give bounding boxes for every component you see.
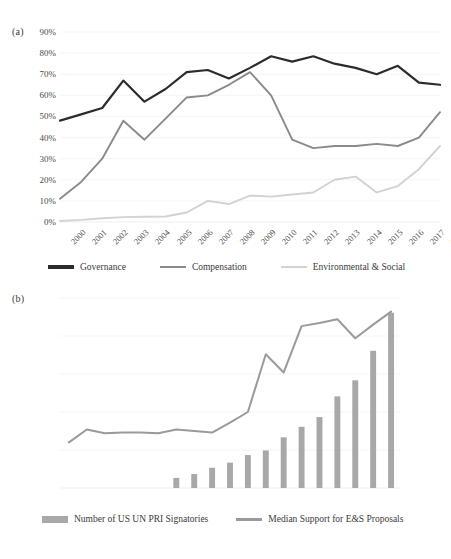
panel-a-label: (a) — [12, 26, 24, 37]
y-tick-label: 80% — [40, 48, 57, 58]
series-line-0 — [60, 56, 440, 120]
median-support-line — [69, 312, 391, 443]
figure-container: (a) 0%10%20%30%40%50%60%70%80%90% 200020… — [0, 0, 451, 559]
x-tick-label: 2012 — [322, 227, 341, 246]
x-tick-label: 2010 — [280, 227, 299, 246]
x-tick-label: 2002 — [111, 227, 130, 246]
panel-b-svg — [60, 298, 400, 488]
x-tick-label: 2013 — [343, 227, 362, 246]
y-tick-label: 70% — [40, 69, 57, 79]
x-tick-label: 2008 — [237, 227, 256, 246]
bar — [281, 437, 287, 488]
legend-item-1: Compensation — [160, 262, 247, 272]
series-line-2 — [60, 146, 440, 221]
bar — [245, 455, 251, 488]
y-tick-label: 50% — [40, 111, 57, 121]
panel-a-plot-area — [60, 32, 440, 222]
panel-b-legend: Number of US UN PRI SignatoriesMedian Su… — [42, 514, 403, 524]
y-tick-label: 0% — [44, 217, 56, 227]
x-tick-label: 2009 — [259, 227, 278, 246]
panel-a-legend: GovernanceCompensationEnvironmental & So… — [48, 262, 421, 272]
x-tick-label: 2005 — [174, 227, 193, 246]
x-tick-label: 2003 — [132, 227, 151, 246]
x-tick-label: 2017 — [427, 227, 446, 246]
bar — [209, 468, 215, 488]
y-tick-label: 30% — [40, 154, 57, 164]
x-tick-label: 2001 — [90, 227, 109, 246]
legend-item-2: Environmental & Social — [281, 262, 405, 272]
x-tick-label: 2015 — [385, 227, 404, 246]
legend-label: Median Support for E&S Proposals — [268, 514, 403, 524]
x-tick-label: 2000 — [69, 227, 88, 246]
panel-b-plot-area — [60, 298, 400, 488]
x-tick-label: 2004 — [153, 227, 172, 246]
legend-bar-swatch — [42, 516, 68, 523]
x-tick-label: 2016 — [406, 227, 425, 246]
bar — [334, 396, 340, 488]
bar — [227, 463, 233, 488]
legend-item-0: Number of US UN PRI Signatories — [42, 514, 208, 524]
chart-panel-a: (a) 0%10%20%30%40%50%60%70%80%90% 200020… — [0, 0, 451, 280]
y-tick-label: 90% — [40, 27, 57, 37]
panel-a-svg — [60, 32, 440, 222]
x-tick-label: 2014 — [364, 227, 383, 246]
y-tick-label: 10% — [40, 196, 57, 206]
y-tick-label: 20% — [40, 175, 57, 185]
y-tick-label: 40% — [40, 133, 57, 143]
bar — [173, 478, 179, 488]
bar — [191, 474, 197, 488]
bar — [263, 450, 269, 488]
bar — [299, 427, 305, 488]
legend-item-1: Median Support for E&S Proposals — [236, 514, 403, 524]
y-tick-label: 60% — [40, 90, 57, 100]
legend-line-swatch — [236, 518, 262, 521]
legend-line-swatch — [281, 266, 307, 269]
legend-label: Compensation — [192, 262, 247, 272]
x-tick-label: 2007 — [216, 227, 235, 246]
legend-label: Governance — [80, 262, 126, 272]
x-tick-label: 2011 — [301, 227, 320, 246]
legend-line-swatch — [160, 266, 186, 269]
legend-label: Number of US UN PRI Signatories — [74, 514, 208, 524]
bar — [388, 313, 394, 488]
legend-line-swatch — [48, 265, 74, 268]
x-tick-label: 2006 — [195, 227, 214, 246]
panel-b-label: (b) — [12, 293, 24, 304]
bar — [317, 417, 323, 488]
bar — [370, 351, 376, 488]
bar — [352, 380, 358, 488]
legend-item-0: Governance — [48, 262, 126, 272]
legend-label: Environmental & Social — [313, 262, 405, 272]
chart-panel-b: (b) 0%5%10%15%20%25% 0501001502002503003… — [0, 280, 451, 559]
